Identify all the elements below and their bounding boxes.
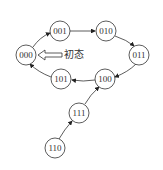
node-000: 000 xyxy=(16,45,36,65)
svg-text:111: 111 xyxy=(73,108,86,118)
state-diagram: 初态 000 001 010 011 100 101 111 110 xyxy=(0,0,163,170)
edge-101-000 xyxy=(30,64,51,77)
node-001: 001 xyxy=(50,21,70,41)
svg-text:010: 010 xyxy=(99,26,113,36)
edge-111-100 xyxy=(85,87,99,104)
edge-000-001 xyxy=(33,33,50,47)
edge-010-011 xyxy=(115,36,134,46)
node-101: 101 xyxy=(51,69,71,89)
node-111: 111 xyxy=(69,103,89,123)
svg-text:011: 011 xyxy=(132,50,145,60)
svg-text:100: 100 xyxy=(98,74,112,84)
edge-011-100 xyxy=(115,64,136,77)
svg-text:000: 000 xyxy=(19,50,33,60)
edge-110-111 xyxy=(59,121,72,139)
svg-text:001: 001 xyxy=(53,26,67,36)
svg-text:110: 110 xyxy=(48,143,62,153)
node-011: 011 xyxy=(129,45,149,65)
edge-100-101 xyxy=(72,80,95,81)
svg-text:101: 101 xyxy=(54,74,68,84)
initial-state-label: 初态 xyxy=(64,48,84,60)
node-100: 100 xyxy=(95,69,115,89)
initial-state-arrow-icon xyxy=(38,50,62,60)
node-010: 010 xyxy=(96,21,116,41)
node-110: 110 xyxy=(45,138,65,158)
